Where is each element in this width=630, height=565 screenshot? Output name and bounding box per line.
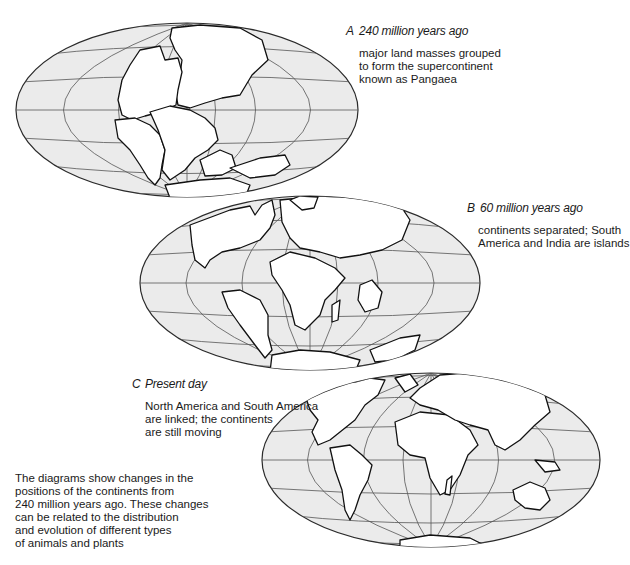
caption-panel-b: B60 million years ago continents separat… [467,202,630,250]
panel-b-letter: B [467,202,480,215]
panel-c-title: CPresent day [132,378,318,391]
caption-panel-a: A240 million years ago major land masses… [346,25,501,86]
panel-a-title: A240 million years ago [346,25,501,38]
map-panel-a [10,20,365,200]
panel-c-letter: C [132,378,145,391]
panel-a-description: major land masses grouped to form the su… [359,47,501,86]
panel-b-title: B60 million years ago [467,202,630,215]
panel-c-description: North America and South America are link… [145,400,318,439]
caption-panel-c: CPresent day North America and South Ame… [132,378,318,439]
panel-a-letter: A [346,25,359,38]
map-panel-b [135,193,485,373]
panel-b-description: continents separated; South America and … [478,224,630,250]
figure-summary: The diagrams show changes in the positio… [15,472,209,550]
